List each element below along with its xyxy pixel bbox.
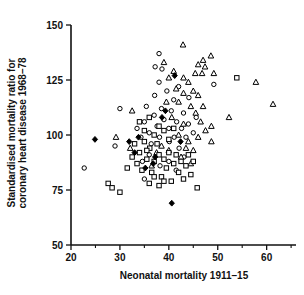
data-point-open-circle <box>147 153 151 157</box>
data-point-open-triangle <box>198 119 204 124</box>
data-point-open-square <box>125 166 129 170</box>
data-point-open-triangle <box>226 114 232 119</box>
data-point-open-square <box>142 139 146 143</box>
data-point-open-square <box>137 120 141 124</box>
data-point-open-square <box>167 137 171 141</box>
data-point-open-circle <box>174 120 178 124</box>
data-point-open-circle <box>181 111 185 115</box>
data-point-open-triangle <box>193 110 199 115</box>
data-point-open-square <box>169 179 173 183</box>
data-point-open-circle <box>135 126 139 130</box>
data-point-open-circle <box>167 126 171 130</box>
data-point-open-square <box>130 155 134 159</box>
data-point-open-triangle <box>209 123 215 128</box>
data-point-open-circle <box>212 82 216 86</box>
data-point-open-triangle <box>208 53 214 58</box>
data-point-open-square <box>137 150 141 154</box>
data-point-open-circle <box>158 164 162 168</box>
data-point-open-circle <box>82 166 86 170</box>
data-point-open-square <box>145 157 149 161</box>
data-point-open-square <box>186 153 190 157</box>
data-point-open-square <box>152 175 156 179</box>
data-point-filled-diamond <box>127 139 132 145</box>
x-tick-label: 50 <box>212 252 224 263</box>
data-point-open-circle <box>152 93 156 97</box>
data-point-filled-diamond <box>92 137 97 143</box>
data-point-open-triangle <box>199 70 205 75</box>
y-tick-label: 125 <box>46 75 63 86</box>
scatter-plot-figure: 50751001251502030405060 Standardised mor… <box>0 0 304 295</box>
data-point-open-triangle <box>176 99 182 104</box>
data-point-open-triangle <box>270 101 276 106</box>
data-point-open-triangle <box>169 114 175 119</box>
data-point-open-square <box>162 179 166 183</box>
y-tick-label: 50 <box>52 240 64 251</box>
x-axis-title: Neonatal mortality 1911–15 <box>74 270 294 281</box>
data-point-open-circle <box>144 104 148 108</box>
data-point-open-square <box>167 150 171 154</box>
data-point-open-square <box>164 166 168 170</box>
data-point-open-triangle <box>203 128 209 133</box>
y-tick-label: 100 <box>46 130 63 141</box>
data-point-open-square <box>176 170 180 174</box>
data-point-filled-diamond <box>169 200 174 206</box>
data-point-open-triangle <box>129 108 135 113</box>
data-point-open-triangle <box>181 90 187 95</box>
data-point-open-circle <box>142 177 146 181</box>
data-point-open-square <box>118 190 122 194</box>
data-point-open-square <box>110 186 114 190</box>
scatter-plot: 50751001251502030405060 <box>0 0 304 295</box>
data-point-open-square <box>172 126 176 130</box>
data-point-open-square <box>142 128 146 132</box>
data-point-open-triangle <box>190 147 196 152</box>
data-point-open-triangle <box>181 75 187 80</box>
data-point-open-triangle <box>171 68 177 73</box>
y-tick-label: 75 <box>52 185 64 196</box>
data-point-filled-diamond <box>178 139 183 145</box>
data-point-open-square <box>106 181 110 185</box>
data-point-open-triangle <box>180 42 186 47</box>
data-point-open-circle <box>184 135 188 139</box>
data-point-open-square <box>184 164 188 168</box>
data-point-open-square <box>172 161 176 165</box>
data-point-open-circle <box>157 51 161 55</box>
data-point-open-square <box>235 76 239 80</box>
data-point-open-triangle <box>161 59 167 64</box>
data-point-open-triangle <box>164 99 170 104</box>
data-point-open-circle <box>152 113 156 117</box>
data-point-open-circle <box>194 115 198 119</box>
data-point-open-circle <box>153 65 157 69</box>
data-point-open-triangle <box>195 134 201 139</box>
data-point-open-circle <box>167 159 171 163</box>
data-point-open-triangle <box>202 64 208 69</box>
data-point-open-square <box>195 186 199 190</box>
x-tick-label: 20 <box>65 252 77 263</box>
y-tick-label: 150 <box>46 20 63 31</box>
y-axis-title-line2: coronary heart disease 1968–78 <box>17 23 28 243</box>
data-point-open-circle <box>187 95 191 99</box>
data-point-open-square <box>174 153 178 157</box>
data-point-open-circle <box>142 120 146 124</box>
data-point-open-square <box>179 159 183 163</box>
data-point-open-triangle <box>211 70 217 75</box>
data-point-open-square <box>155 142 159 146</box>
data-point-open-circle <box>113 144 117 148</box>
data-point-open-circle <box>172 98 176 102</box>
data-point-open-triangle <box>209 139 215 144</box>
y-axis-title-line1: Standardised mortality ratio for <box>6 23 17 243</box>
data-point-open-circle <box>179 126 183 130</box>
data-point-open-square <box>150 170 154 174</box>
data-point-open-square <box>162 128 166 132</box>
data-point-open-triangle <box>200 103 206 108</box>
y-axis-title: Standardised mortality ratio for coronar… <box>6 23 28 243</box>
data-point-open-triangle <box>181 121 187 126</box>
x-tick-label: 30 <box>114 252 126 263</box>
x-tick-label: 40 <box>163 252 175 263</box>
data-point-open-square <box>147 181 151 185</box>
data-point-open-circle <box>147 131 151 135</box>
x-tick-label: 60 <box>261 252 273 263</box>
data-point-open-square <box>157 183 161 187</box>
data-point-open-triangle <box>113 134 119 139</box>
data-point-open-triangle <box>253 79 259 84</box>
data-point-open-square <box>145 148 149 152</box>
